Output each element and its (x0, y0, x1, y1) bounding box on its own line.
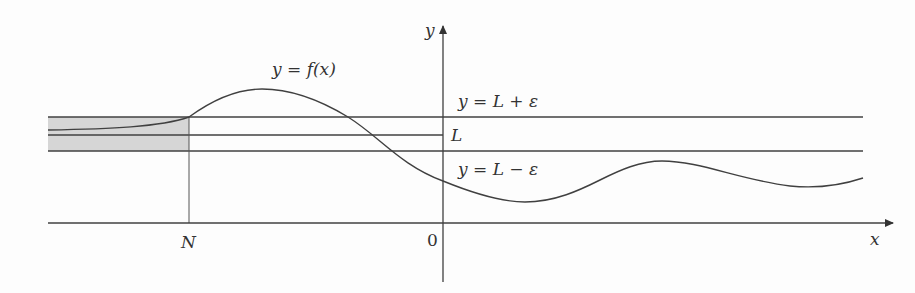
limit-label: L (451, 127, 462, 144)
diagram-graphics (0, 0, 915, 293)
n-label: N (181, 234, 196, 251)
x-axis-label: x (870, 231, 880, 248)
limit-at-negative-infinity-diagram: y = f(x) y = L + ε L y = L − ε y x 0 N (0, 0, 915, 293)
y-axis-label: y (425, 22, 435, 39)
lower-line-label: y = L − ε (458, 161, 538, 178)
upper-line-label: y = L + ε (458, 93, 538, 110)
curve-label: y = f(x) (272, 61, 336, 78)
origin-label: 0 (427, 232, 438, 249)
